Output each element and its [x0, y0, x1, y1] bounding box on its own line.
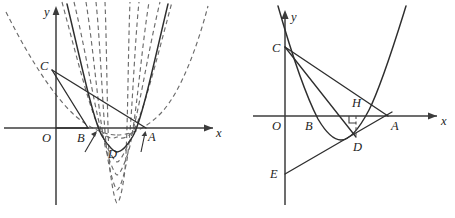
- left-point-label-D: D: [107, 147, 117, 161]
- right-point-label-A: A: [390, 119, 399, 133]
- right-segments: [285, 47, 392, 174]
- right-y-axis-arrow-icon: [281, 10, 288, 19]
- parabola-dashed-outer-left-icon: [6, 12, 117, 135]
- left-y-axis-arrow-icon: [53, 6, 60, 15]
- right-segment-EA: [285, 112, 392, 174]
- right-point-label-C: C: [272, 41, 281, 55]
- right-axes: [253, 10, 437, 205]
- left-segment-CA: [52, 70, 146, 128]
- left-point-label-C: C: [40, 59, 49, 73]
- left-diagram-group: y x O B A C D: [4, 2, 222, 205]
- right-point-label-D: D: [352, 140, 362, 154]
- right-segment-CA: [285, 47, 388, 116]
- left-pointer-arrowhead-B-icon: [91, 131, 97, 137]
- right-point-label-E: E: [269, 167, 278, 181]
- left-y-axis-label: y: [42, 5, 50, 19]
- left-x-axis-arrow-icon: [204, 125, 213, 132]
- parabola-dashed-5-icon: [105, 2, 130, 203]
- right-point-label-H: H: [351, 96, 362, 110]
- right-diagram-group: y x O B A C D E H: [253, 6, 447, 205]
- right-point-label-B: B: [305, 119, 313, 133]
- right-point-label-O: O: [272, 119, 281, 133]
- right-x-axis-arrow-icon: [428, 113, 437, 120]
- right-y-axis-label: y: [289, 10, 297, 24]
- figure-canvas: y x O B A C D: [0, 0, 455, 218]
- left-segments: [52, 70, 146, 128]
- left-dashed-parabola-family: [6, 2, 208, 203]
- left-point-label-O: O: [42, 131, 51, 145]
- geometry-figure-root: y x O B A C D: [0, 0, 455, 218]
- parabola-dashed-3-icon: [86, 2, 149, 175]
- left-point-label-A: A: [147, 130, 156, 144]
- left-pointer-arrowhead-A-icon: [142, 131, 148, 136]
- left-x-axis-label: x: [215, 126, 222, 140]
- right-angle-marker-icon: [349, 116, 356, 123]
- left-point-label-B: B: [77, 131, 85, 145]
- right-x-axis-label: x: [440, 114, 447, 128]
